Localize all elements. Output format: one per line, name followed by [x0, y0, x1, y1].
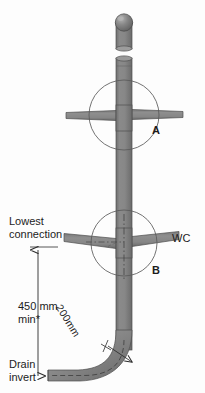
- branch-pipe-lower-group: [64, 228, 179, 258]
- branch-upper-right-arm: [132, 110, 183, 120]
- label-drain-invert: Drain invert: [9, 358, 36, 384]
- stack-top-rim: [116, 56, 132, 61]
- branch-pipe-upper: [66, 105, 183, 131]
- label-wc: WC: [172, 232, 190, 245]
- stack-front-at-a: [116, 105, 132, 131]
- label-detail-b: B: [152, 264, 160, 277]
- label-detail-a: A: [152, 124, 160, 137]
- swept-bend-and-drain: [48, 330, 132, 381]
- plumbing-diagram: Lowest connection WC A B 450 mm min* 200…: [0, 0, 205, 393]
- label-lowest-connection: Lowest connection: [9, 215, 62, 241]
- vent-cap-highlight-icon: [118, 16, 124, 21]
- label-min-height-qualifier: min*: [18, 313, 58, 326]
- branch-upper-left-arm: [66, 111, 116, 121]
- label-drain-invert-line2: invert: [9, 371, 36, 384]
- vent-cap-assembly: [115, 14, 132, 51]
- vent-cap-dome-body: [115, 14, 132, 31]
- label-min-height: 450 mm min*: [18, 300, 58, 326]
- label-min-height-value: 450 mm: [18, 300, 58, 313]
- label-lowest-connection-line2: connection: [9, 228, 62, 241]
- label-lowest-connection-line1: Lowest: [9, 215, 62, 228]
- stack-body: [116, 58, 132, 350]
- vertical-soil-stack: [116, 56, 132, 350]
- swept-bend: [48, 330, 132, 381]
- label-drain-invert-line1: Drain: [9, 358, 36, 371]
- diagram-canvas: [0, 0, 205, 393]
- vent-stub-rim: [116, 46, 132, 51]
